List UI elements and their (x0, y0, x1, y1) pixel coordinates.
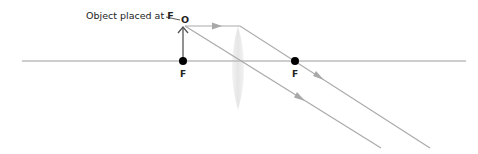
focal-left-label: F (180, 69, 186, 79)
arrow-ray1-head-b (313, 71, 324, 80)
object-point-label: O (181, 14, 189, 25)
convex-lens (232, 26, 244, 110)
lens-ray-diagram: Object placed at F O F F (0, 0, 478, 154)
arrow-ray2-head (294, 92, 305, 101)
focal-point-left (179, 57, 187, 65)
ray-parallel (185, 26, 430, 148)
focal-right-label: F (292, 69, 298, 79)
object-label: Object placed at F (86, 10, 174, 21)
focal-point-right (291, 57, 299, 65)
ray-through-centre (185, 26, 381, 148)
arrow-ray1-head-a (212, 23, 222, 30)
